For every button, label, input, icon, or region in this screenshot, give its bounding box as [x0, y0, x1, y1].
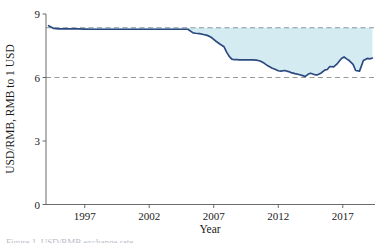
y-tick-label: 0	[35, 199, 41, 211]
x-tick-label: 1997	[74, 210, 97, 222]
x-tick-label: 2017	[332, 210, 355, 222]
x-tick-label: 2002	[138, 210, 160, 222]
figure-caption-partial: Figure 1. USD/RMB exchange rate	[6, 237, 384, 243]
y-tick-label: 6	[35, 72, 41, 84]
y-axis-ticks: 0369	[35, 8, 47, 211]
x-tick-label: 2012	[267, 210, 289, 222]
plot-area	[46, 26, 375, 78]
shaded-area	[49, 26, 373, 77]
y-axis-title: USD/RMB, RMB to 1 USD	[4, 44, 17, 173]
exchange-rate-figure: 0369 19972002200720122017 Year USD/RMB, …	[0, 0, 390, 243]
y-tick-label: 9	[35, 8, 41, 20]
chart-canvas: 0369 19972002200720122017 Year USD/RMB, …	[0, 0, 390, 243]
y-tick-label: 3	[35, 135, 41, 147]
x-axis-title: Year	[199, 223, 220, 235]
x-axis-ticks: 19972002200720122017	[74, 205, 355, 222]
x-tick-label: 2007	[203, 210, 226, 222]
